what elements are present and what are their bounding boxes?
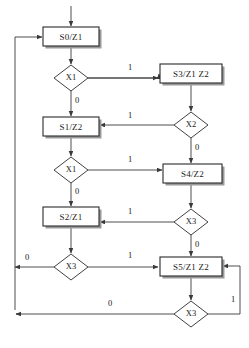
edge-label-x1a-false: 0 [75,95,79,105]
state-node-s5-label: S5/Z1 Z2 [173,262,209,272]
state-node-s2[interactable]: S2/Z1 [43,207,102,229]
edge-label-x1b-false: 0 [75,186,79,196]
state-node-s0[interactable]: S0/Z1 [43,27,102,49]
decision-node-x3-bottom-label: X3 [186,308,196,318]
edge-label-x3c-false: 0 [108,298,112,308]
edge-label-x3b-false: 0 [25,252,29,262]
decision-node-x1-top[interactable]: X1 [54,65,88,91]
state-node-s0-label: S0/Z1 [59,32,82,42]
decision-node-x3-left[interactable]: X3 [54,254,88,280]
decision-node-x3-left-label: X3 [66,261,76,271]
decision-node-x3-right-label: X3 [186,216,196,226]
state-node-s5[interactable]: S5/Z1 Z2 [160,257,225,279]
decision-node-x1-top-label: X1 [66,72,76,82]
state-node-s3[interactable]: S3/Z1 Z2 [160,64,225,86]
decision-node-x1-middle[interactable]: X1 [54,157,88,183]
edge-label-x3a-false: 0 [195,239,199,249]
state-node-s3-label: S3/Z1 Z2 [173,69,209,79]
asm-flowchart-diagram: S0/Z1 S3/Z1 Z2 S1/Z2 S4/Z2 [0,0,249,348]
edge-label-x1a-true: 1 [128,62,132,72]
diagram-canvas: S0/Z1 S3/Z1 Z2 S1/Z2 S4/Z2 [0,0,249,348]
state-node-s1-label: S1/Z2 [59,122,82,132]
edge-label-x2-false: 0 [195,142,199,152]
state-node-s4[interactable]: S4/Z2 [163,164,225,186]
state-node-s4-label: S4/Z2 [181,169,204,179]
nodes-layer: S0/Z1 S3/Z1 Z2 S1/Z2 S4/Z2 [43,27,225,327]
edge-label-x3a-true: 1 [128,206,132,216]
decision-node-x3-right[interactable]: X3 [174,209,208,235]
decision-node-x3-bottom[interactable]: X3 [174,301,208,327]
edge-x1a-1-to-s3 [88,74,159,78]
decision-node-x1-middle-label: X1 [66,164,76,174]
edge-label-x3b-true: 1 [128,250,132,260]
edge-label-x3c-true: 1 [231,294,235,304]
edge-leftbus-to-s0 [15,37,42,310]
decision-node-x2-label: X2 [186,119,196,129]
state-node-s1[interactable]: S1/Z2 [43,117,102,139]
state-node-s2-label: S2/Z1 [59,212,82,222]
decision-node-x2[interactable]: X2 [174,112,208,138]
edge-label-x2-true: 1 [128,110,132,120]
edge-label-x1b-true: 1 [128,154,132,164]
